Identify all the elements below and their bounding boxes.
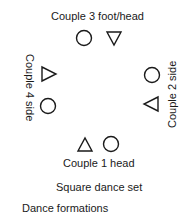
couple-3-triangle-down-icon	[107, 32, 121, 45]
couple-4-triangle-right-icon	[42, 67, 56, 81]
couple-2-triangle-left-icon	[144, 97, 158, 111]
couple-1-triangle-up-icon	[78, 138, 92, 151]
couple-1-circle-icon	[104, 137, 119, 152]
formation-shapes	[0, 0, 191, 217]
couple-3-circle-icon	[77, 31, 92, 46]
couple-2-circle-icon	[145, 68, 160, 83]
couple-4-circle-icon	[41, 99, 56, 114]
